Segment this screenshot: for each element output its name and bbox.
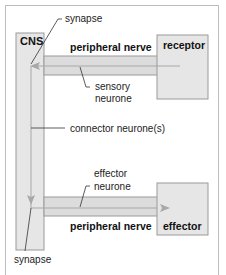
synapse-bottom-label: synapse [14, 254, 51, 265]
bottom-nerve-bar [44, 197, 158, 216]
effector-neurone-label-line2: neurone [94, 181, 131, 192]
receptor-label: receptor [163, 40, 205, 51]
bottom-peripheral-nerve-label: peripheral nerve [70, 221, 152, 232]
synapse-top-label: synapse [65, 13, 102, 24]
effector-label: effector [163, 221, 202, 232]
top-peripheral-nerve-label: peripheral nerve [70, 42, 152, 53]
sensory-label-line1: sensory [95, 81, 130, 92]
connector-neurone-label: connector neurone(s) [70, 123, 165, 134]
sensory-label-line2: neurone [95, 93, 132, 104]
cns-label: CNS [20, 36, 43, 47]
effector-neurone-label-line1: effector [94, 168, 127, 179]
